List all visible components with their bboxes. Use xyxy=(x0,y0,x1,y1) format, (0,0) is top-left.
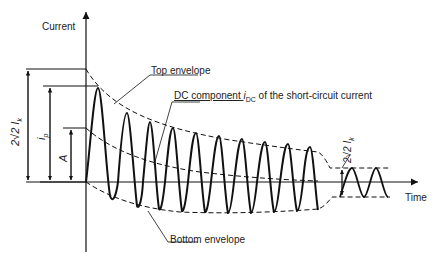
dc-component-prefix: DC component xyxy=(174,90,243,101)
label-steady-state-2sqrt2-ik: 2√2 Ik xyxy=(343,137,355,163)
x-axis-label: Time xyxy=(405,193,427,203)
diagram-canvas xyxy=(0,0,436,264)
label-a: A xyxy=(58,155,69,162)
y-axis-label: Current xyxy=(42,22,75,32)
dc-component-subscript: DC xyxy=(246,96,256,103)
top-envelope-label: Top envelope xyxy=(151,66,211,76)
short-circuit-current-diagram: Current Time Top envelope DC component i… xyxy=(0,0,436,264)
label-2sqrt2-ik: 2√2 Ik xyxy=(10,118,23,146)
label-ip: ip xyxy=(36,134,49,140)
dc-component-suffix: of the short-circuit current xyxy=(256,90,372,101)
short-circuit-current-waveform xyxy=(86,88,318,213)
bottom-envelope-label: Bottom envelope xyxy=(170,235,245,245)
bottom-envelope-curve xyxy=(86,182,390,213)
dc-component-label: DC component iDC of the short-circuit cu… xyxy=(174,91,372,103)
